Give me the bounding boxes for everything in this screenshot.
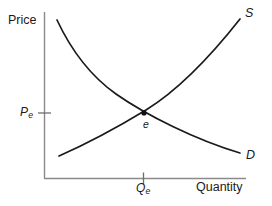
x-axis-tick-label-qe: Qe xyxy=(136,182,150,194)
qe-base: Q xyxy=(136,181,145,195)
supply-curve xyxy=(59,19,240,156)
y-axis-tick-label-pe: Pe xyxy=(20,106,33,118)
pe-base: P xyxy=(20,105,28,119)
qe-subscript: e xyxy=(146,186,151,196)
pe-subscript: e xyxy=(28,110,33,120)
supply-demand-chart: Price Quantity S D Pe Qe e xyxy=(0,0,272,206)
supply-curve-label: S xyxy=(245,7,253,20)
equilibrium-point-label: e xyxy=(143,119,149,130)
y-axis-label: Price xyxy=(8,14,36,27)
chart-canvas xyxy=(0,0,272,206)
demand-curve xyxy=(57,20,240,153)
demand-curve-label: D xyxy=(246,149,255,162)
x-axis-label: Quantity xyxy=(196,181,243,194)
equilibrium-dot xyxy=(141,110,146,115)
